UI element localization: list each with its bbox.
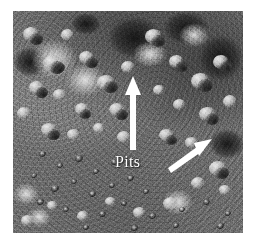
diagonal-arrow xyxy=(168,139,212,173)
annotation-overlay: Pits xyxy=(13,11,243,233)
pits-label: Pits xyxy=(115,154,140,170)
figure-page: Pits xyxy=(0,0,256,247)
surface-photograph: Pits xyxy=(13,11,243,233)
arrow-overlay-svg xyxy=(13,11,243,233)
vertical-arrow xyxy=(125,76,141,150)
